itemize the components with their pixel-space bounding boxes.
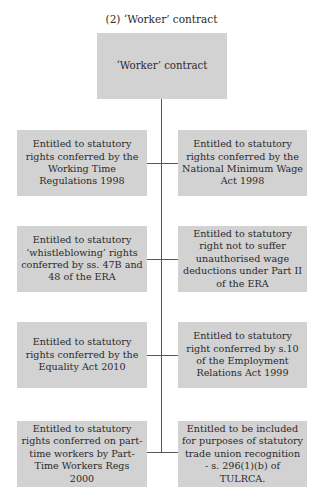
- node-label: Entitled to statutory right not to suffe…: [182, 228, 303, 290]
- diagram-caption: (2) ‘Worker’ contract: [0, 13, 323, 25]
- node-label: Entitled to statutory ‘whistleblowing’ r…: [21, 234, 143, 284]
- row3-connector: [147, 355, 178, 356]
- row1-connector: [147, 163, 178, 164]
- row4-connector: [147, 452, 178, 453]
- node-working-time-regulations: Entitled to statutory rights conferred b…: [17, 130, 147, 196]
- node-unauthorised-deductions: Entitled to statutory right not to suffe…: [178, 226, 307, 292]
- node-national-minimum-wage: Entitled to statutory rights conferred b…: [178, 130, 307, 196]
- node-whistleblowing-rights: Entitled to statutory ‘whistleblowing’ r…: [17, 226, 147, 292]
- node-label: Entitled to statutory rights conferred o…: [21, 423, 143, 485]
- node-part-time-workers-regs: Entitled to statutory rights conferred o…: [17, 421, 147, 487]
- node-label: Entitled to be included for purposes of …: [182, 423, 303, 485]
- root-node-label: ‘Worker’ contract: [117, 60, 208, 72]
- node-label: Entitled to statutory rights conferred b…: [21, 336, 143, 373]
- node-label: Entitled to statutory rights conferred b…: [21, 138, 143, 188]
- root-node-worker-contract: ‘Worker’ contract: [97, 33, 227, 99]
- node-equality-act: Entitled to statutory rights conferred b…: [17, 322, 147, 388]
- trunk-connector: [161, 99, 162, 453]
- row2-connector: [147, 259, 178, 260]
- node-trade-union-recognition: Entitled to be included for purposes of …: [178, 421, 307, 487]
- node-label: Entitled to statutory rights conferred b…: [182, 138, 303, 188]
- node-employment-relations-act: Entitled to statutory right conferred by…: [178, 322, 307, 388]
- node-label: Entitled to statutory right conferred by…: [182, 330, 303, 380]
